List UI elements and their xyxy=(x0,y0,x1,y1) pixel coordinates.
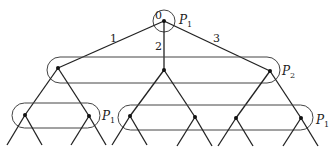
node xyxy=(87,114,91,118)
node xyxy=(299,116,303,120)
edge xyxy=(236,71,270,118)
root-label: 0 xyxy=(155,9,162,22)
root-node xyxy=(162,19,166,23)
info-set-p1-left-label: P1 xyxy=(101,109,115,125)
game-tree-diagram: 0 P1 1 2 3 P2 P1 P1 xyxy=(0,0,330,161)
info-set-p2-label: P2 xyxy=(281,64,295,80)
edge xyxy=(270,71,301,118)
node xyxy=(234,116,238,120)
edge-label-1: 1 xyxy=(110,32,117,45)
edge xyxy=(25,68,58,115)
node xyxy=(128,114,132,118)
info-set-p1-right xyxy=(118,105,313,130)
node xyxy=(23,113,27,117)
edge-3 xyxy=(164,21,270,71)
edge xyxy=(164,70,195,117)
edge xyxy=(130,70,164,116)
edge-label-2: 2 xyxy=(155,40,162,53)
node xyxy=(268,69,272,73)
edge xyxy=(58,68,89,116)
node xyxy=(193,115,197,119)
node xyxy=(162,68,166,72)
edge-label-3: 3 xyxy=(213,32,220,45)
info-set-p1-right-label: P1 xyxy=(315,113,329,129)
root-player-label: P1 xyxy=(178,13,192,29)
node xyxy=(56,66,60,70)
